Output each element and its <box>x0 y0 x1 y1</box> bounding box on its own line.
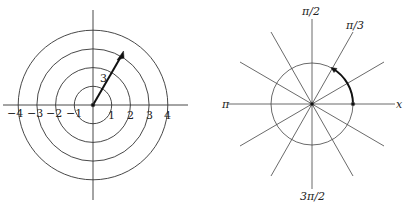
tick-label-2: 2 <box>127 109 134 122</box>
tick-label-neg4: −4 <box>7 107 23 120</box>
label-x: x <box>396 98 403 111</box>
tick-label-neg3: −3 <box>27 107 43 120</box>
arc-start-dot <box>351 102 355 106</box>
tick-label-4: 4 <box>164 109 171 122</box>
label-pi-over-3: π/3 <box>345 19 364 32</box>
tick-label-neg1: −1 <box>66 107 82 120</box>
diagram-canvas: 3 1 2 3 4 −1 −2 −3 −4 π/2 π/3 π x 3π/2 <box>0 0 406 211</box>
tick-label-3: 3 <box>146 109 153 122</box>
vector-arrowhead-icon <box>117 51 124 60</box>
right-diagram <box>228 19 395 189</box>
left-origin-dot <box>91 103 95 107</box>
left-labels: 3 1 2 3 4 −1 −2 −3 −4 <box>7 72 171 122</box>
vector-arrow-shaft <box>93 57 121 106</box>
right-origin-dot <box>310 102 314 106</box>
tick-label-1: 1 <box>108 109 115 122</box>
left-diagram <box>3 10 188 200</box>
tick-label-neg2: −2 <box>46 107 62 120</box>
label-3pi-over-2: 3π/2 <box>300 190 325 203</box>
label-pi: π <box>221 98 230 111</box>
label-pi-over-2: π/2 <box>301 5 320 18</box>
vector-label: 3 <box>100 72 107 85</box>
